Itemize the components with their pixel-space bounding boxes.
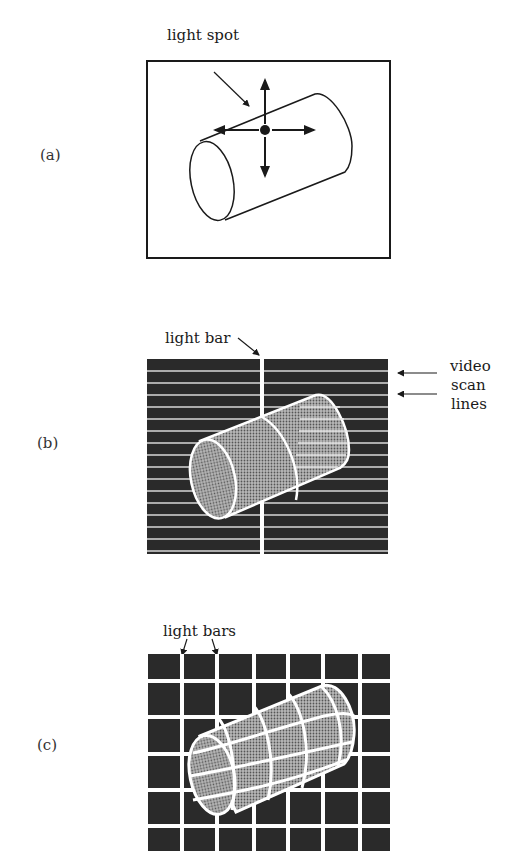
light-bars-leader-arrow-icon xyxy=(182,639,187,655)
scan-label: scan xyxy=(451,376,486,394)
video-label: video xyxy=(449,357,491,375)
light-bars-leader-arrow-icon xyxy=(212,639,217,655)
panel-a: (a) light spot xyxy=(40,26,390,258)
panel-b: (b) light bar xyxy=(37,329,491,554)
panel-label-c: (c) xyxy=(37,736,57,754)
light-spot-dot-icon xyxy=(260,125,270,135)
panel-a-frame xyxy=(147,61,390,258)
lines-label: lines xyxy=(451,395,487,413)
panel-label-a: (a) xyxy=(40,146,61,164)
light-bar-leader-arrow-icon xyxy=(238,338,259,355)
light-bars-label: light bars xyxy=(163,622,236,640)
light-bar-label: light bar xyxy=(165,329,231,347)
panel-label-b: (b) xyxy=(37,434,58,452)
figure-canvas: (a) light spot (b) light bar xyxy=(0,0,514,868)
light-spot-label: light spot xyxy=(167,26,239,44)
panel-c: (c) light bars xyxy=(37,622,390,851)
